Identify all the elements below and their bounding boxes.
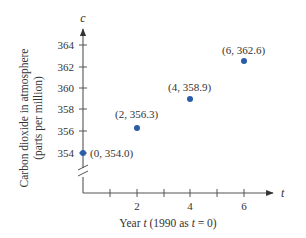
data-point [80, 150, 86, 156]
point-label: (6, 362.6) [222, 44, 265, 57]
y-tick-label: 356 [58, 125, 75, 137]
x-tick-label: 4 [187, 200, 193, 212]
point-label: (4, 358.9) [168, 81, 211, 94]
y-axis-title-line1: Carbon dioxide in atmosphere [18, 49, 31, 188]
x-axis-title: Year t (1990 as t = 0) [119, 217, 217, 230]
point-label: (2, 356.3) [115, 108, 158, 121]
data-point [187, 96, 193, 102]
y-tick-label: 360 [58, 82, 75, 94]
y-tick-label: 362 [58, 61, 75, 73]
y-tick-label: 354 [58, 147, 75, 159]
x-tick-labels: 2 4 6 [134, 200, 247, 212]
data-point [134, 125, 140, 131]
x-tick-label: 6 [241, 200, 247, 212]
data-point [241, 58, 247, 64]
x-axis-variable: t [281, 186, 285, 200]
y-tick-label: 358 [58, 103, 75, 115]
x-tick-label: 2 [134, 200, 140, 212]
data-points [80, 58, 247, 156]
y-axis-variable: c [80, 11, 86, 25]
point-labels: (0, 354.0) (2, 356.3) (4, 358.9) (6, 362… [90, 44, 265, 160]
y-tick-label: 364 [58, 39, 75, 51]
point-label: (0, 354.0) [90, 147, 133, 160]
y-axis-title-line2: (parts per million) [32, 76, 45, 160]
y-axis-title: Carbon dioxide in atmosphere (parts per … [18, 49, 45, 188]
y-tick-labels: 354 356 358 360 362 364 [58, 39, 75, 159]
scatter-chart: c t 354 356 358 360 362 364 2 4 6 Year t… [0, 0, 306, 238]
